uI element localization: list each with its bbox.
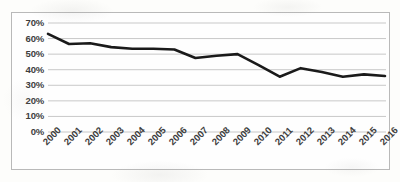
x-axis: 2000200120022003200420052006200720082009… [0, 0, 400, 182]
x-tick-label-2001: 2001 [62, 125, 84, 147]
x-tick-label-2000: 2000 [41, 125, 63, 147]
x-tick-label-2015: 2015 [357, 125, 379, 147]
x-tick-label-2012: 2012 [294, 125, 316, 147]
chart-figure: 0%10%20%30%40%50%60%70% 2000200120022003… [0, 0, 400, 182]
x-tick-label-2005: 2005 [146, 125, 168, 147]
x-tick-label-2016: 2016 [378, 125, 400, 147]
x-tick-label-2013: 2013 [315, 125, 337, 147]
x-tick-label-2011: 2011 [273, 125, 294, 146]
x-tick-label-2004: 2004 [125, 125, 147, 147]
x-tick-label-2002: 2002 [83, 125, 105, 147]
x-tick-label-2014: 2014 [336, 125, 358, 147]
x-tick-label-2010: 2010 [252, 125, 274, 147]
x-tick-label-2006: 2006 [167, 125, 189, 147]
x-tick-label-2003: 2003 [104, 125, 126, 147]
x-tick-label-2007: 2007 [188, 125, 210, 147]
x-tick-label-2008: 2008 [210, 125, 232, 147]
x-tick-label-2009: 2009 [231, 125, 253, 147]
